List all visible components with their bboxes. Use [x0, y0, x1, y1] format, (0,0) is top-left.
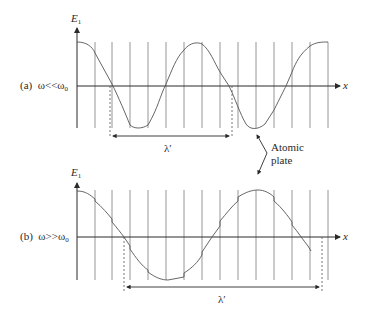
panel-a [77, 28, 340, 138]
panel-a-y-sub: 1 [78, 18, 82, 26]
panel-b-label: (b) ω>>ω0 [20, 231, 69, 244]
atomic-plate-annotation-line1: Atomic [271, 142, 304, 153]
panel-b-wavelength-label: λ′ [218, 294, 226, 305]
panel-b-condition: ω>>ω [38, 230, 65, 242]
atomic-plates-a [95, 42, 328, 128]
field-wave-a [77, 42, 328, 129]
atomic-plate-pointers [257, 135, 267, 174]
panel-b-y-sub: 1 [78, 172, 82, 180]
panel-b-condition-sub: 0 [65, 236, 69, 244]
panel-a-x-axis-label: x [343, 80, 348, 91]
panel-b [77, 183, 340, 292]
panel-a-label: (a) ω<<ω0 [20, 80, 68, 93]
panel-b-y-axis-label: E1 [71, 167, 81, 180]
panel-b-letter: (b) [20, 230, 33, 242]
panel-a-condition: ω<<ω [38, 79, 65, 91]
atomic-plate-annotation-line2: plate [271, 155, 292, 166]
panel-a-condition-sub: 0 [65, 85, 69, 93]
panel-b-x-axis-label: x [343, 231, 348, 242]
diagram-canvas [0, 0, 368, 311]
panel-a-letter: (a) [20, 79, 32, 91]
panel-a-y-axis-label: E1 [71, 13, 81, 26]
panel-a-y-symbol: E [71, 12, 78, 24]
atomic-plates-b [95, 190, 328, 280]
panel-a-wavelength-label: λ′ [164, 143, 172, 154]
panel-b-y-symbol: E [71, 166, 78, 178]
